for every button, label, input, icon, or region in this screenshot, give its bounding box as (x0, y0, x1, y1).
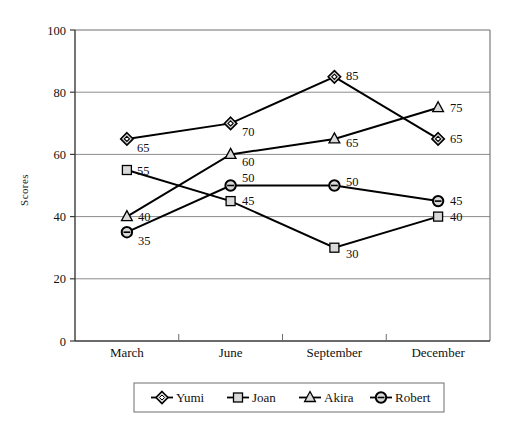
square-icon (234, 393, 243, 402)
y-tick-label-100: 100 (47, 24, 66, 38)
data-label-robert-june: 50 (242, 171, 255, 185)
marker-robert-march (122, 227, 132, 237)
y-axis-title: Scores (18, 174, 30, 206)
marker-joan-september (330, 243, 339, 252)
data-label-robert-september: 50 (346, 175, 359, 189)
marker-joan-december (434, 212, 443, 221)
data-label-yumi-december: 65 (450, 132, 463, 146)
legend-label-yumi: Yumi (176, 390, 205, 405)
data-label-akira-december: 75 (450, 101, 463, 115)
marker-joan-june (226, 197, 235, 206)
data-label-robert-march: 35 (138, 234, 151, 248)
y-tick-label-40: 40 (54, 210, 67, 224)
data-label-joan-september: 30 (346, 247, 359, 261)
chart-canvas: 100 80 60 40 20 0 March June September D… (0, 0, 531, 442)
x-tick-label-september: September (307, 345, 363, 360)
data-label-akira-september: 65 (346, 136, 359, 150)
y-tick-label-20: 20 (54, 272, 67, 286)
legend-label-akira: Akira (324, 390, 354, 405)
x-tick-labels: March June September December (110, 345, 466, 360)
data-label-joan-june: 45 (242, 194, 255, 208)
x-tick-label-december: December (411, 345, 465, 360)
y-tick-label-0: 0 (60, 335, 66, 349)
legend-label-joan: Joan (252, 390, 276, 405)
data-label-joan-december: 40 (450, 210, 463, 224)
x-tick-label-march: March (110, 345, 144, 360)
circle-icon (376, 392, 386, 402)
marker-robert-september (329, 180, 339, 190)
y-tick-marks (70, 30, 75, 341)
data-label-yumi-march: 65 (137, 141, 150, 155)
data-label-robert-december: 45 (450, 194, 463, 208)
legend: Yumi Joan Akira Robert (134, 383, 444, 412)
data-label-akira-march: 40 (138, 210, 151, 224)
y-tick-labels: 100 80 60 40 20 0 (47, 24, 66, 349)
line-chart: 100 80 60 40 20 0 March June September D… (0, 0, 531, 442)
legend-label-robert: Robert (395, 390, 431, 405)
marker-joan-march (122, 166, 131, 175)
y-tick-label-80: 80 (54, 86, 67, 100)
marker-robert-december (433, 196, 443, 206)
data-label-joan-march: 55 (137, 164, 150, 178)
legend-entry-robert[interactable]: Robert (370, 390, 431, 405)
y-tick-label-60: 60 (54, 148, 67, 162)
data-label-yumi-september: 85 (346, 69, 359, 83)
data-label-akira-june: 60 (242, 155, 255, 169)
data-label-yumi-june: 70 (242, 125, 255, 139)
marker-robert-june (225, 180, 235, 190)
x-tick-label-june: June (219, 345, 243, 360)
